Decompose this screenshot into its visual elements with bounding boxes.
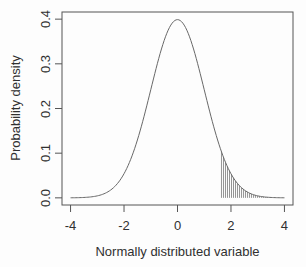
axis-ticks — [55, 19, 284, 212]
normal-distribution-figure: Normally distributed variable Probabilit… — [0, 0, 306, 267]
y-axis-title: Probability density — [8, 55, 23, 161]
x-axis-title: Normally distributed variable — [62, 244, 293, 259]
x-tick-label: -2 — [109, 218, 139, 233]
y-tick-label: 0.2 — [38, 99, 53, 117]
density-curve — [71, 20, 285, 198]
y-tick-label: 0.4 — [38, 10, 53, 28]
y-tick-label: 0.0 — [38, 189, 53, 207]
x-tick-label: 0 — [163, 218, 193, 233]
plot-box — [62, 12, 293, 205]
x-tick-label: 4 — [269, 218, 299, 233]
plot-canvas — [0, 0, 306, 267]
y-tick-label: 0.1 — [38, 144, 53, 162]
x-tick-label: -4 — [56, 218, 86, 233]
x-tick-label: 2 — [216, 218, 246, 233]
y-tick-label: 0.3 — [38, 55, 53, 73]
